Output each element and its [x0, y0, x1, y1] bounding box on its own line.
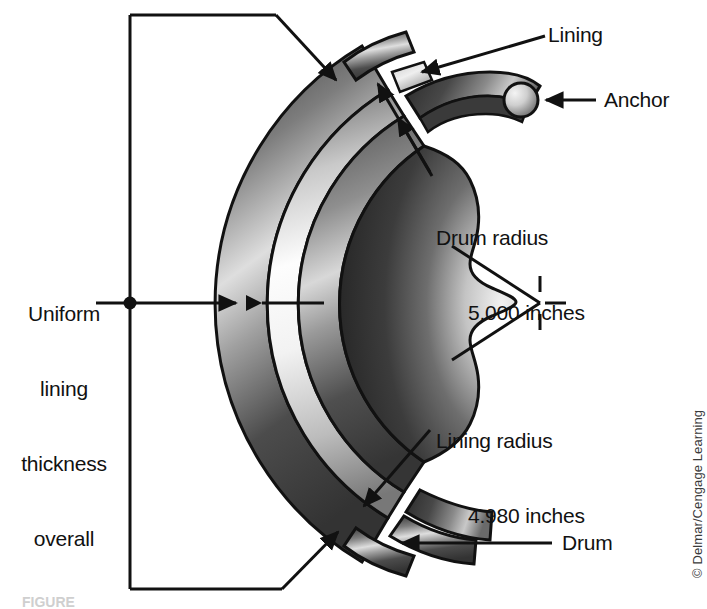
lining-radius-line-2: 4.980 inches [436, 503, 585, 528]
uniform-thickness-line-3: thickness [8, 451, 120, 476]
drum-radius-label: Drum radius 5.000 inches [436, 175, 585, 375]
figure-caption: FIGURE [22, 594, 75, 609]
anchor-pin [504, 83, 538, 117]
uniform-thickness-line-4: overall [8, 526, 120, 551]
drum-radius-line-1: Drum radius [436, 225, 585, 250]
lining-leader-line [422, 36, 545, 72]
lining-radius-line-1: Lining radius [436, 428, 585, 453]
uniform-thickness-line-2: lining [8, 376, 120, 401]
copyright-credit: © Delmar/Cengage Learning [690, 410, 705, 578]
uniform-thickness-line-1: Uniform [8, 301, 120, 326]
lining-label: Lining [548, 22, 603, 47]
uniform-thickness-label: Uniform lining thickness overall [8, 251, 120, 601]
anchor-label: Anchor [604, 87, 669, 112]
drum-radius-line-2: 5.000 inches [436, 300, 585, 325]
drum-label: Drum [562, 530, 613, 555]
figure-root: Uniform lining thickness overall Lining … [0, 0, 707, 609]
